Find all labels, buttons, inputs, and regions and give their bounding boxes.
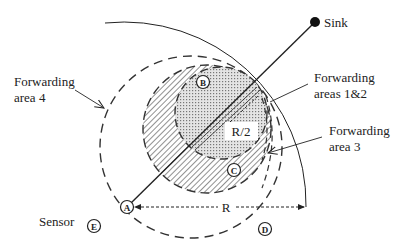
sink-node[interactable] [310,17,320,27]
forwarding-area-3-label-line1: Forwarding [329,123,390,138]
node-c-label: C [231,166,238,176]
node-d-label: D [262,225,269,235]
forwarding-area-3-label-line2: area 3 [329,139,360,154]
sensor-node-d[interactable]: D [259,223,272,236]
forwarding-areas-diagram: R/2 Sink R A B C D Sensor E Forwarding a… [0,0,401,252]
node-e-label: E [91,222,97,232]
forwarding-areas-1-2-label-line2: areas 1&2 [314,86,367,101]
forwarding-areas-1-2-pointer [270,84,308,102]
forwarding-area-4-label-line2: area 4 [14,90,46,105]
radius-label: R [222,200,231,215]
forwarding-area-4-label-line1: Forwarding [14,74,75,89]
sink-label: Sink [324,15,348,30]
radius-r-arrow-left-head [134,204,141,210]
sensor-node-a[interactable]: A [121,201,134,214]
forwarding-area-3-pointer [268,137,322,153]
sensor-node-b[interactable]: B [197,76,210,89]
sensor-node-e[interactable]: E [88,220,101,233]
node-b-label: B [200,78,206,88]
half-radius-label: R/2 [232,124,251,139]
sensor-legend-label: Sensor [39,214,75,229]
forwarding-areas-1-2-label-line1: Forwarding [314,70,375,85]
node-a-label: A [124,203,131,213]
sensor-node-c[interactable]: C [228,164,241,177]
forwarding-area-4-pointer [75,90,104,108]
